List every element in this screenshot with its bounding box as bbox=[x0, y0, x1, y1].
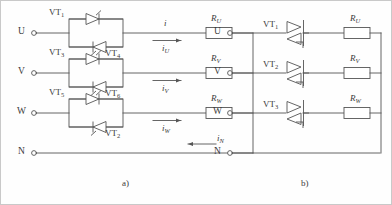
current-label-i-a: i bbox=[164, 19, 167, 28]
panel-caption-b: b) bbox=[301, 179, 309, 188]
triac-vt2 bbox=[287, 62, 301, 74]
terminal-label-w-b: W bbox=[213, 107, 222, 117]
current-label-iv: iV bbox=[162, 84, 169, 94]
device-label-vt6-a: VT6 bbox=[105, 89, 120, 99]
resistor-label-ru-b: RU bbox=[350, 14, 360, 24]
circuit-svg bbox=[1, 1, 392, 205]
device-label-vt4-a: VT4 bbox=[105, 49, 120, 59]
terminal-label-u-a: U bbox=[18, 27, 25, 37]
device-label-vt2-a: VT2 bbox=[105, 129, 120, 139]
device-box-w-a bbox=[69, 99, 123, 127]
terminal-label-n-a: N bbox=[18, 147, 25, 157]
device-label-vt1-b: VT1 bbox=[263, 20, 278, 30]
resistor-label-ru-a: RU bbox=[211, 14, 221, 24]
resistor-label-rw-b: RW bbox=[350, 94, 361, 104]
resistor-label-rv-a: RV bbox=[211, 54, 220, 64]
terminal-dot-w-a bbox=[32, 111, 37, 116]
terminal-label-n-b: N bbox=[214, 147, 221, 157]
panel-caption-a: a) bbox=[122, 179, 129, 188]
panel-b-wiring bbox=[228, 28, 381, 156]
resistor-box-rw-b bbox=[344, 108, 370, 119]
terminal-dot-v-a bbox=[32, 71, 37, 76]
current-label-in: iN bbox=[217, 134, 224, 144]
terminal-dot-n-a bbox=[32, 151, 37, 156]
triac-vt1 bbox=[287, 22, 301, 34]
figure-container: U V W N VT1 VT4 VT3 VT6 VT5 VT2 i iU iV … bbox=[0, 0, 392, 205]
triac-symbols-b bbox=[287, 20, 309, 128]
device-label-vt1-a: VT1 bbox=[49, 8, 64, 18]
device-box-u-a bbox=[69, 19, 123, 47]
thyristor-vt1 bbox=[86, 14, 99, 25]
current-label-iw: iW bbox=[162, 124, 170, 134]
terminal-label-w-a: W bbox=[17, 107, 26, 117]
resistor-label-rv-b: RV bbox=[350, 54, 359, 64]
resistor-label-rw-a: RW bbox=[211, 94, 222, 104]
terminal-label-u-b: U bbox=[214, 27, 221, 37]
resistor-box-rv-b bbox=[344, 68, 370, 79]
thyristor-vt5 bbox=[86, 94, 99, 105]
device-label-vt2-b: VT2 bbox=[263, 60, 278, 70]
thyristor-symbols-a bbox=[69, 11, 123, 136]
terminal-dot-u-a bbox=[32, 31, 37, 36]
resistor-box-ru-b bbox=[344, 28, 370, 39]
current-label-iu: iU bbox=[162, 44, 169, 54]
triac-vt3 bbox=[287, 102, 301, 114]
device-label-vt3-b: VT3 bbox=[263, 100, 278, 110]
thyristor-vt3 bbox=[86, 54, 99, 65]
device-box-v-a bbox=[69, 59, 123, 87]
device-label-vt3-a: VT3 bbox=[49, 48, 64, 58]
device-label-vt5-a: VT5 bbox=[49, 88, 64, 98]
terminal-label-v-a: V bbox=[18, 67, 25, 77]
terminal-label-v-b: V bbox=[214, 67, 221, 77]
